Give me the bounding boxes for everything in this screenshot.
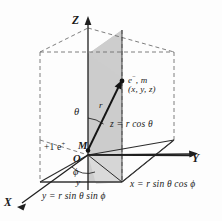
nucleus-charge-superscript: +	[62, 140, 66, 147]
x-equation-label: x = r sin θ cos ϕ	[130, 180, 195, 190]
spherical-coordinates-figure: Z X Y e−, m (x, y, z) +1 e+ M O θ ϕ r z …	[0, 0, 222, 221]
electron-coordinates-label: (x, y, z)	[128, 85, 156, 94]
theta-angle-label: θ	[74, 106, 79, 117]
y-axis-label: Y	[192, 152, 199, 164]
phi-angle-label: ϕ	[73, 166, 79, 177]
nucleus-charge-group: +1 e+	[44, 141, 65, 153]
nucleus-charge-label: +1 e	[44, 142, 62, 152]
z-axis-label: Z	[72, 14, 79, 26]
radius-vector-label: r	[99, 101, 103, 110]
x-axis-arrowhead	[17, 204, 26, 211]
origin-label: O	[73, 153, 81, 164]
y-equation-label: y = r sin θ sin ϕ	[42, 192, 106, 202]
electron-point-marker	[120, 79, 125, 84]
y-edge-label: y	[76, 178, 80, 187]
z-axis-arrowhead	[85, 16, 92, 25]
nucleus-mass-label: M	[78, 140, 88, 151]
x-axis-label: X	[4, 196, 12, 208]
z-equation-label: z = r cos θ	[110, 120, 153, 130]
